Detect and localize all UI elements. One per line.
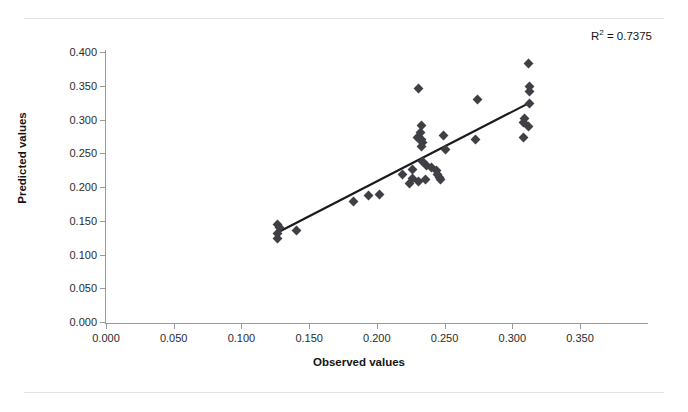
y-tick-label-text: 0.300: [69, 114, 97, 126]
x-tick-mark: [241, 324, 242, 329]
y-tick-mark: [100, 120, 105, 121]
data-point: [472, 94, 482, 104]
x-tick-mark: [445, 324, 446, 329]
data-point: [364, 190, 374, 200]
y-axis-title: Predicted values: [16, 88, 28, 228]
y-tick-label-text: 0.200: [69, 181, 97, 193]
data-point: [438, 131, 448, 141]
y-tick-mark: [100, 322, 105, 323]
y-tick-mark: [100, 153, 105, 154]
x-tick-label: 0.100: [228, 332, 256, 344]
x-axis-title-text: Observed values: [313, 356, 405, 368]
data-point: [292, 225, 302, 235]
y-tick-mark: [100, 86, 105, 87]
plot-area: [106, 52, 580, 322]
y-tick-mark: [100, 288, 105, 289]
x-tick-label: 0.350: [566, 332, 594, 344]
x-tick-label: 0.250: [431, 332, 459, 344]
data-point: [414, 83, 424, 93]
x-tick-mark: [174, 324, 175, 329]
y-tick-label-text: 0.100: [69, 249, 97, 261]
y-tick-label-text: 0.050: [69, 282, 97, 294]
data-point: [273, 233, 283, 243]
y-tick-mark: [100, 187, 105, 188]
x-tick-mark: [512, 324, 513, 329]
data-point: [375, 189, 385, 199]
y-tick-label-text: 0.350: [69, 80, 97, 92]
bottom-divider-rule: [24, 392, 664, 393]
data-point: [398, 169, 408, 179]
data-point: [471, 134, 481, 144]
data-point: [524, 59, 534, 69]
data-point: [518, 132, 528, 142]
y-tick-label-text: 0.400: [69, 46, 97, 58]
y-tick-mark: [100, 221, 105, 222]
y-tick-label-text: 0.150: [69, 215, 97, 227]
x-tick-mark: [377, 324, 378, 329]
scatter-plot-figure: R2 = 0.7375 0.0000.0500.1000.1500.2000.2…: [0, 0, 688, 412]
data-point: [525, 98, 535, 108]
data-point: [349, 196, 359, 206]
r-squared-annotation: R2 = 0.7375: [591, 28, 652, 42]
y-tick-mark: [100, 52, 105, 53]
data-point: [441, 144, 451, 154]
x-tick-label: 0.050: [160, 332, 188, 344]
trendline: [106, 52, 580, 322]
data-point: [525, 86, 535, 96]
x-tick-label: 0.150: [295, 332, 323, 344]
top-divider-rule: [24, 18, 664, 19]
y-tick-label-text: 0.250: [69, 147, 97, 159]
x-tick-mark: [580, 324, 581, 329]
x-tick-label: 0.300: [499, 332, 527, 344]
x-axis-title: Observed values: [0, 356, 688, 368]
x-tick-mark: [309, 324, 310, 329]
x-tick-label: 0.200: [363, 332, 391, 344]
x-tick-label: 0.000: [92, 332, 120, 344]
x-tick-mark: [106, 324, 107, 329]
data-point: [421, 175, 431, 185]
y-tick-label-text: 0.000: [69, 316, 97, 328]
y-tick-mark: [100, 255, 105, 256]
